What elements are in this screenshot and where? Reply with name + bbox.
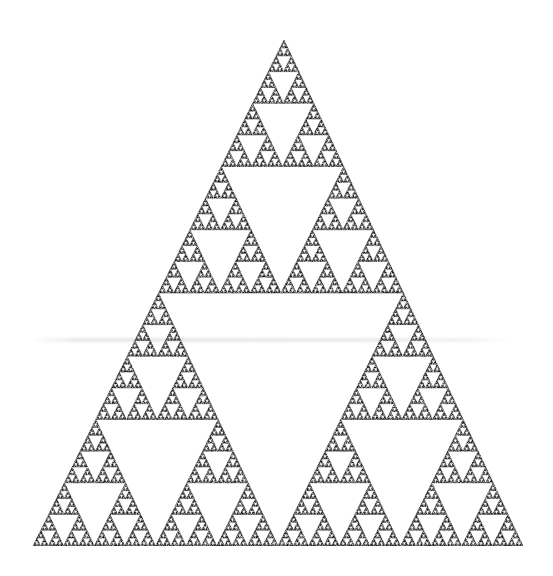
fractal-triangles xyxy=(33,40,523,546)
sierpinski-triangle xyxy=(0,0,553,576)
